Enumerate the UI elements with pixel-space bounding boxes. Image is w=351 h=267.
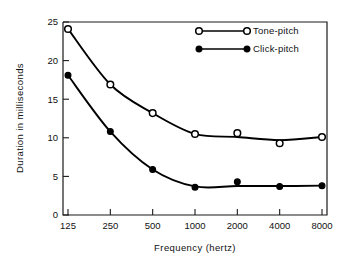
legend-marker-tone-pitch xyxy=(244,28,251,35)
data-point-click-pitch-1000 xyxy=(192,184,198,190)
data-point-tone-pitch-2000 xyxy=(234,130,241,137)
y-tick-label: 5 xyxy=(53,171,58,182)
x-tick-label: 250 xyxy=(102,220,118,231)
data-point-click-pitch-250 xyxy=(107,129,113,135)
y-axis-title: Duration in milliseconds xyxy=(14,63,25,173)
x-tick-label: 1000 xyxy=(184,220,205,231)
x-tick-label: 4000 xyxy=(269,220,290,231)
y-tick-label: 20 xyxy=(47,55,58,66)
data-point-click-pitch-125 xyxy=(65,72,71,78)
x-tick-label: 125 xyxy=(60,220,76,231)
y-axis-ticks: 0510152025 xyxy=(47,16,69,220)
x-tick-label: 500 xyxy=(145,220,161,231)
legend-label-tone-pitch: Tone-pitch xyxy=(253,25,299,36)
data-point-click-pitch-500 xyxy=(150,167,156,173)
y-tick-label: 15 xyxy=(47,94,58,105)
legend-marker-click-pitch xyxy=(196,46,202,52)
data-point-tone-pitch-8000 xyxy=(319,134,326,141)
x-axis-title: Frequency (hertz) xyxy=(154,242,236,253)
data-point-tone-pitch-500 xyxy=(149,110,156,117)
legend-marker-tone-pitch xyxy=(196,28,203,35)
data-point-tone-pitch-125 xyxy=(65,26,72,33)
y-tick-label: 10 xyxy=(47,132,58,143)
duration-vs-frequency-chart: 0510152025 1252505001000200040008000 Ton… xyxy=(0,0,351,267)
data-point-click-pitch-2000 xyxy=(234,179,240,185)
chart-figure: 0510152025 1252505001000200040008000 Ton… xyxy=(0,0,351,267)
data-point-click-pitch-4000 xyxy=(277,184,283,190)
legend-marker-click-pitch xyxy=(244,46,250,52)
legend-label-click-pitch: Click-pitch xyxy=(253,43,299,54)
data-point-click-pitch-8000 xyxy=(319,183,325,189)
data-point-tone-pitch-250 xyxy=(107,81,114,88)
data-point-tone-pitch-4000 xyxy=(276,140,283,147)
x-tick-label: 2000 xyxy=(227,220,248,231)
chart-legend: Tone-pitchClick-pitch xyxy=(196,25,299,54)
x-axis-ticks: 1252505001000200040008000 xyxy=(60,209,333,231)
data-point-tone-pitch-1000 xyxy=(192,131,199,138)
y-tick-label: 0 xyxy=(53,209,58,220)
y-tick-label: 25 xyxy=(47,16,58,27)
x-tick-label: 8000 xyxy=(311,220,332,231)
